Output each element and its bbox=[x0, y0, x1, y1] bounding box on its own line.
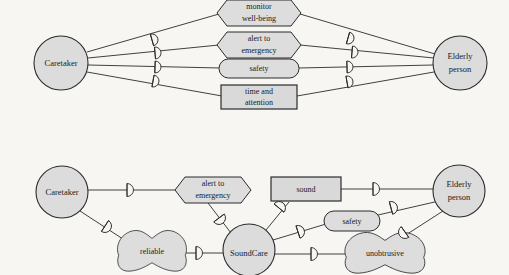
resource-label-line1: time and bbox=[245, 87, 273, 96]
link-caretaker-reliable bbox=[80, 211, 126, 241]
resource-label-line2: attention bbox=[245, 98, 273, 107]
link-monitor-wellbeing-elderly bbox=[300, 14, 435, 54]
actor-caretaker-top[interactable]: Caretaker bbox=[34, 36, 88, 90]
actor-label-line1: Elderly bbox=[447, 51, 473, 61]
actor-label: SoundCare bbox=[230, 248, 268, 258]
link-caretaker-monitor-wellbeing bbox=[87, 14, 219, 52]
actor-label-line2: person bbox=[449, 64, 472, 74]
actor-elderly-person-top[interactable]: Elderly person bbox=[433, 36, 487, 90]
goal-label: safety bbox=[342, 217, 361, 226]
actor-label-line2: person bbox=[448, 192, 471, 202]
actor-label: Caretaker bbox=[44, 58, 77, 68]
task-label-line1: alert to bbox=[202, 179, 224, 188]
resource-label: sound bbox=[296, 185, 315, 194]
dependency-marker-caretaker-time bbox=[152, 75, 160, 88]
dependency-marker-soundcare-unobtrusive bbox=[311, 248, 318, 261]
task-label-line1: alert to bbox=[248, 34, 270, 43]
actor-label: Caretaker bbox=[45, 187, 78, 197]
link-safety-elderly-bottom bbox=[378, 201, 439, 215]
task-label-line1: monitor bbox=[246, 2, 272, 11]
goal-safety-bottom[interactable]: safety bbox=[324, 211, 380, 231]
dependency-marker-caretaker-safety bbox=[155, 61, 161, 73]
link-alert-elderly bbox=[300, 45, 434, 58]
goal-safety-top[interactable]: safety bbox=[219, 59, 299, 78]
dependency-marker-alert-soundcare bbox=[214, 214, 228, 227]
dependency-marker-alert-elderly bbox=[351, 46, 358, 58]
dependency-marker-caretaker-monitor bbox=[150, 33, 159, 46]
softgoal-unobtrusive-label: unobtrusive bbox=[366, 249, 404, 258]
link-caretaker-alert bbox=[88, 45, 219, 58]
task-label-line2: emergency bbox=[242, 46, 277, 55]
task-label-line2: emergency bbox=[196, 191, 231, 200]
dependency-marker-soundcare-safety bbox=[296, 224, 306, 238]
dependency-marker-sound-elderly bbox=[373, 183, 380, 196]
softgoal-reliable-label: reliable bbox=[140, 247, 164, 256]
diagram-svg: Caretaker Elderly person monitor well-be… bbox=[0, 0, 509, 275]
link-caretaker-safety bbox=[88, 65, 220, 68]
task-label-line2: well-being bbox=[242, 14, 276, 23]
link-safety-elderly bbox=[299, 65, 433, 68]
goal-label: safety bbox=[249, 64, 268, 73]
istar-diagram-canvas: Caretaker Elderly person monitor well-be… bbox=[0, 0, 509, 275]
actor-elderly-person-bottom[interactable]: Elderly person bbox=[433, 165, 485, 217]
resource-time-and-attention[interactable]: time and attention bbox=[221, 85, 297, 109]
dependency-marker-caretaker-alert bbox=[154, 46, 161, 58]
dependency-marker-reliable-soundcare bbox=[196, 247, 203, 260]
dependency-marker-caretaker-alert-bottom bbox=[127, 184, 134, 197]
dependency-marker-monitor-elderly bbox=[346, 32, 355, 45]
dependency-marker-safety-elderly bbox=[347, 61, 353, 73]
actor-label-line1: Elderly bbox=[446, 179, 472, 189]
link-time-attention-elderly bbox=[297, 72, 434, 96]
task-alert-to-emergency-bottom[interactable]: alert to emergency bbox=[175, 177, 251, 203]
task-alert-to-emergency-top[interactable]: alert to emergency bbox=[217, 32, 301, 58]
actor-soundcare[interactable]: SoundCare bbox=[223, 224, 275, 275]
dependency-marker-caretaker-reliable bbox=[101, 221, 114, 235]
resource-sound[interactable]: sound bbox=[271, 177, 341, 201]
task-monitor-well-being[interactable]: monitor well-being bbox=[217, 0, 301, 26]
actor-caretaker-bottom[interactable]: Caretaker bbox=[36, 166, 88, 218]
